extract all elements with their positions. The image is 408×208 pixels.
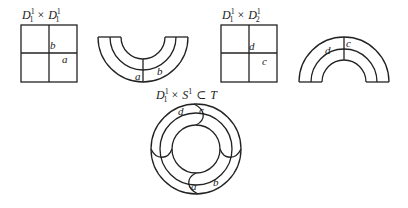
torus-figure: D11×S1⊂T d c a b: [151, 87, 241, 194]
torus-right-seam: [220, 149, 241, 157]
square-2-title: D11×D12: [221, 7, 261, 24]
u-annulus-figure: a b: [98, 37, 188, 82]
arch-annulus-figure: d c: [299, 37, 389, 82]
u-inner-arc: [121, 37, 165, 59]
torus-title: D11×S1⊂T: [155, 87, 218, 104]
torus-label-a: a: [191, 180, 197, 192]
torus-label-b: b: [213, 176, 219, 188]
square-1-figure: D11×D11 b a: [21, 7, 77, 82]
torus-label-c: c: [199, 104, 204, 116]
square-2-label-c: c: [262, 55, 267, 67]
u-label-a: a: [135, 70, 141, 82]
square-1-label-b: b: [50, 39, 56, 51]
torus-left-seam: [151, 149, 172, 157]
arch-label-c: c: [346, 37, 351, 49]
torus-inner-circle: [172, 125, 220, 173]
square-1-label-a: a: [62, 53, 68, 65]
arch-label-d: d: [325, 44, 331, 56]
square-1-title: D11×D11: [21, 7, 61, 24]
u-label-b: b: [157, 65, 163, 77]
arch-inner-arc: [322, 60, 366, 82]
diagram-canvas: D11×D11 b a a b D11×D12 d c d: [0, 0, 408, 208]
torus-label-d: d: [178, 105, 184, 117]
square-2-label-d: d: [249, 40, 255, 52]
torus-middle-circle: [160, 113, 232, 185]
square-2-figure: D11×D12 d c: [221, 7, 277, 82]
